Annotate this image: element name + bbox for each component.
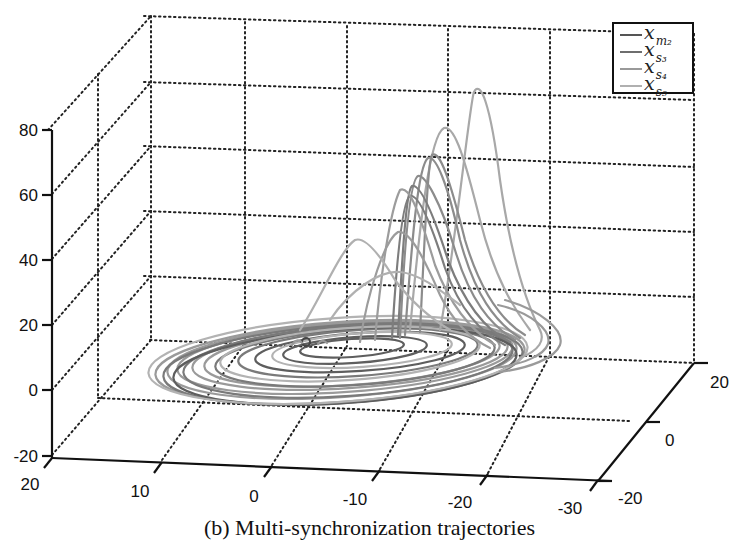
legend-swatch (620, 34, 642, 36)
legend-label: xs₅ (644, 73, 666, 96)
legend-swatch (620, 51, 642, 53)
y-axis-tick-labels: -20 0 20 (618, 373, 729, 508)
z-tick: -20 (13, 447, 38, 466)
x-tick: -10 (343, 490, 368, 509)
grid (48, 16, 694, 473)
z-tick: 20 (19, 316, 38, 335)
legend-swatch (620, 85, 642, 87)
y-tick: -20 (618, 489, 643, 508)
trajectories (146, 89, 561, 416)
legend-item: xs₅ (618, 77, 694, 94)
x-tick: -20 (448, 493, 473, 512)
figure-caption: (b) Multi-synchronization trajectories (0, 515, 739, 541)
y-tick: 0 (665, 431, 674, 450)
x-axis-tick-labels: 20 10 0 -10 -20 -30 (21, 475, 583, 518)
z-tick: 40 (19, 251, 38, 270)
axes (42, 130, 708, 491)
z-tick: 60 (19, 186, 38, 205)
z-tick: 80 (19, 121, 38, 140)
legend: xm₂ xs₃ xs₄ xs₅ (612, 22, 694, 94)
x-tick: 0 (249, 487, 258, 506)
legend-swatch (620, 68, 642, 70)
y-tick: 20 (710, 373, 729, 392)
z-tick: 0 (29, 381, 38, 400)
x-tick: 10 (131, 482, 150, 501)
x-tick: 20 (21, 475, 40, 494)
z-axis-tick-labels: 80 60 40 20 0 -20 (13, 121, 38, 466)
